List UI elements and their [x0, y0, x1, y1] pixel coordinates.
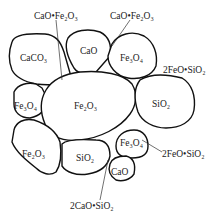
callout-cao-fe2o3-right: CaO•Fe₂O₃: [110, 12, 154, 22]
callout-dicalcium-silicate: 2CaO•SiO₂: [70, 202, 114, 212]
label-fe3o4-left: Fe₃O₄: [14, 102, 37, 112]
label-fe2o3-center: Fe₂O₃: [74, 102, 97, 112]
callout-cao-fe2o3-left: CaO•Fe₂O₃: [34, 12, 78, 22]
label-sio2-right: SiO₂: [152, 100, 170, 110]
label-sio2-bottom: SiO₂: [76, 154, 94, 164]
callout-fayalite-bottom: 2FeO•SiO₂: [162, 150, 205, 160]
label-fe3o4-top: Fe₃O₄: [120, 54, 143, 64]
sinter-microstructure-diagram: CaCO₃ CaO Fe₃O₄ Fe₃O₄ Fe₂O₃ SiO₂ Fe₂O₃ S…: [0, 0, 218, 220]
label-cao-top: CaO: [80, 47, 97, 57]
label-fe2o3-left: Fe₂O₃: [22, 150, 45, 160]
label-fe3o4-right: Fe₃O₄: [120, 139, 143, 149]
callout-fayalite-top: 2FeO•SiO₂: [163, 66, 206, 76]
label-caco3: CaCO₃: [20, 54, 47, 64]
label-cao-bottom: CaO: [111, 168, 128, 178]
